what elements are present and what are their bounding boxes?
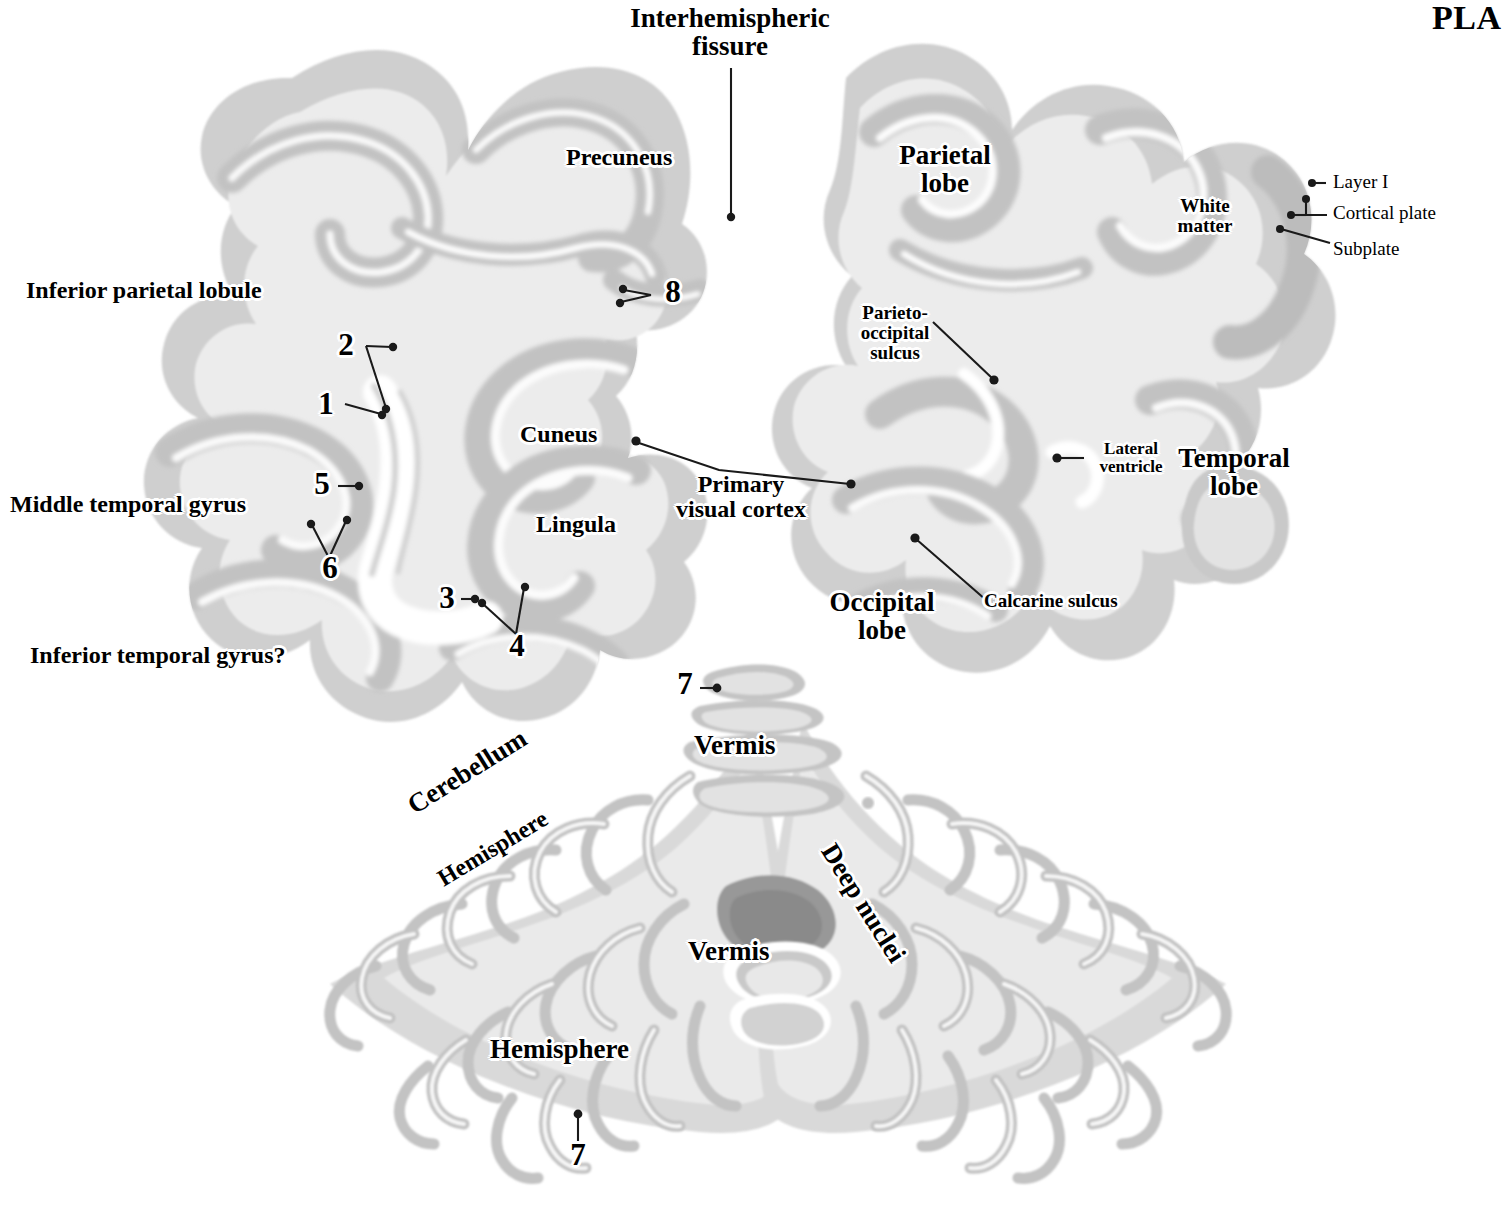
label-inferior-parietal-lobule: Inferior parietal lobule [26, 278, 262, 303]
dot-parieto-occipital-sulcus [989, 375, 998, 384]
dot-subplate [1276, 225, 1284, 233]
label-temporal-lobe: Temporal lobe [1168, 444, 1300, 501]
marker-3: 3 [430, 582, 464, 615]
label-interhemispheric-fissure: Interhemispheric fissure [580, 4, 880, 61]
dot-2a [389, 343, 397, 351]
atlas-plate: PLA Interhemispheric fissure Precuneus P… [0, 0, 1511, 1211]
dot-calcarine-sulcus [910, 533, 919, 542]
label-vermis-lower: Vermis [688, 937, 770, 965]
label-cortical-plate: Cortical plate [1333, 203, 1436, 223]
label-cuneus: Cuneus [520, 422, 597, 447]
dot-8b [616, 299, 624, 307]
vermis-fleck [862, 797, 874, 809]
dot-7-upper [713, 684, 722, 693]
dot-layer-one [1308, 179, 1316, 187]
dot-interhemispheric-fissure [727, 213, 735, 221]
marker-4: 4 [500, 630, 534, 663]
label-parieto-occipital-sulcus: Parieto- occipital sulcus [840, 303, 950, 363]
dot-lateral-ventricle [1052, 453, 1061, 462]
marker-5: 5 [305, 468, 339, 501]
label-primary-visual-cortex: Primary visual cortex [672, 472, 810, 522]
dot-6a [307, 520, 315, 528]
label-occipital-lobe: Occipital lobe [812, 588, 952, 645]
plate-title: PLA [1432, 0, 1502, 36]
label-hemisphere-lower: Hemisphere [490, 1035, 629, 1063]
brain-section-illustration [0, 0, 1511, 1211]
dot-4a [478, 599, 486, 607]
label-lingula: Lingula [536, 512, 616, 537]
label-parietal-lobe: Parietal lobe [860, 141, 1030, 198]
dot-8a [619, 285, 627, 293]
label-subplate: Subplate [1333, 239, 1400, 259]
label-middle-temporal-gyrus: Middle temporal gyrus [10, 492, 246, 517]
dot-cortical-plate-lower [1287, 211, 1295, 219]
label-calcarine-sulcus: Calcarine sulcus [984, 591, 1118, 611]
marker-7-lower: 7 [561, 1139, 595, 1172]
label-inferior-temporal-gyrus: Inferior temporal gyrus? [30, 643, 286, 668]
marker-8: 8 [656, 276, 690, 309]
label-white-matter: White matter [1155, 196, 1255, 236]
dot-5 [355, 482, 363, 490]
label-vermis-upper: Vermis [694, 731, 776, 759]
dot-6b [343, 516, 351, 524]
dot-cortical-plate-upper [1302, 195, 1310, 203]
leader-2a [366, 346, 392, 347]
label-precuneus: Precuneus [566, 145, 672, 170]
dot-primary-visual-cortex-right [846, 479, 855, 488]
marker-6: 6 [313, 552, 347, 585]
dot-1 [378, 411, 386, 419]
label-lateral-ventricle: Lateral ventricle [1086, 440, 1176, 476]
marker-7-upper: 7 [668, 668, 702, 701]
dot-4b [521, 583, 529, 591]
dot-primary-visual-cortex-left [631, 436, 640, 445]
marker-1: 1 [309, 388, 343, 421]
dot-7-lower [574, 1110, 583, 1119]
label-layer-one: Layer I [1333, 172, 1388, 192]
marker-2: 2 [329, 329, 363, 362]
